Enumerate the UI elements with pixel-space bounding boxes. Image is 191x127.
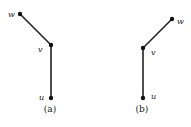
edge-w-v	[20, 14, 51, 45]
figure-caption: (a)	[44, 104, 56, 114]
node-v	[141, 46, 145, 50]
figure-caption: (b)	[136, 104, 149, 114]
node-label-w: w	[177, 17, 184, 26]
node-label-v: v	[151, 48, 156, 57]
node-label-u: u	[151, 92, 156, 101]
figure-a: wvu(a)	[8, 10, 56, 114]
node-label-w: w	[8, 10, 15, 19]
graph-diagram: wvu(a)wvu(b)	[0, 0, 191, 127]
node-w	[18, 12, 22, 16]
node-label-v: v	[38, 45, 43, 54]
node-label-u: u	[39, 93, 44, 102]
node-v	[49, 43, 53, 47]
figure-b: wvu(b)	[136, 17, 184, 114]
node-u	[49, 96, 53, 100]
node-w	[170, 17, 174, 21]
edge-w-v	[143, 19, 172, 48]
node-u	[141, 96, 145, 100]
